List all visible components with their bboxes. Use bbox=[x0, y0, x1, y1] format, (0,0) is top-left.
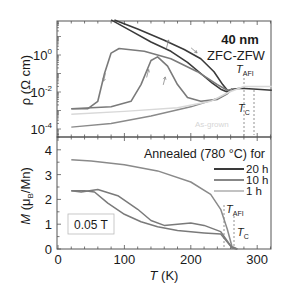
x-axis-label: T (K) bbox=[150, 268, 179, 283]
y-tick-label: 1 bbox=[45, 217, 52, 232]
bottom-y-tick-labels: 01234 bbox=[45, 143, 52, 257]
bottom-panel-series bbox=[71, 160, 237, 249]
series-1-h bbox=[71, 160, 237, 249]
legend: 20 h10 h1 h bbox=[214, 163, 268, 197]
y-tick-label: 0 bbox=[45, 242, 52, 257]
y-tick-label: 3 bbox=[45, 168, 52, 183]
field-label: 0.05 T bbox=[74, 218, 108, 232]
x-tick-label: 0 bbox=[54, 252, 61, 267]
top-y-axis-label: ρ (Ω cm) bbox=[18, 55, 33, 105]
legend-label: 1 h bbox=[246, 185, 262, 197]
tafi-label-top: TAFI bbox=[236, 63, 254, 77]
tc-label-bottom: TC bbox=[237, 226, 249, 240]
top-title-protocol: ZFC-ZFW bbox=[207, 48, 265, 63]
y-tick-label: 100 bbox=[33, 47, 52, 63]
bottom-y-axis-label: M (μB/Mn) bbox=[18, 167, 35, 225]
y-tick-label: 2 bbox=[45, 192, 52, 207]
bottom-title: Annealed (780 °C) for bbox=[144, 147, 265, 161]
top-y-tick-labels: 10010-210-4 bbox=[30, 47, 52, 137]
top-title-thickness: 40 nm bbox=[221, 32, 259, 47]
x-tick-label: 200 bbox=[180, 252, 202, 267]
tc-label-top: TC bbox=[238, 102, 250, 116]
figure: 40 nm ZFC-ZFW TAFI TC As-grown 10010-210… bbox=[0, 0, 287, 300]
as-grown-label: As-grown bbox=[195, 120, 229, 129]
y-tick-label: 10-4 bbox=[30, 121, 52, 137]
y-tick-label: 4 bbox=[45, 143, 52, 158]
tafi-label-bottom: TAFI bbox=[226, 203, 244, 217]
x-tick-label: 300 bbox=[246, 252, 268, 267]
y-tick-label: 10-2 bbox=[30, 84, 52, 100]
x-tick-labels: 0100200300 bbox=[54, 252, 268, 267]
x-tick-label: 100 bbox=[114, 252, 136, 267]
